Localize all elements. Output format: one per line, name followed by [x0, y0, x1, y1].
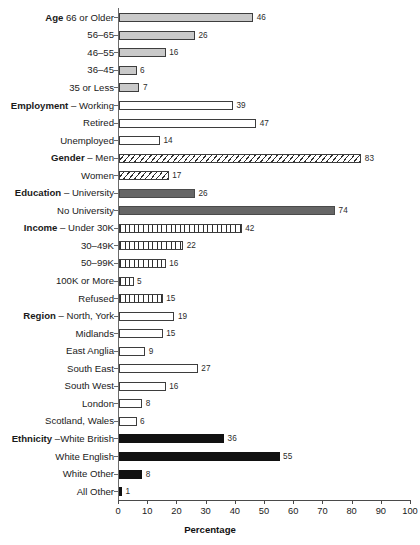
bar [119, 119, 256, 128]
bar-label: Gender – Men [0, 153, 114, 163]
bar [119, 83, 139, 92]
bar-and-value: 7 [119, 78, 148, 98]
x-axis-title: Percentage [0, 524, 420, 535]
bar-row: East Anglia9 [0, 341, 420, 361]
bar-value-label: 9 [149, 347, 154, 356]
bar-value-label: 74 [339, 206, 348, 215]
bar-label: South West [0, 381, 114, 391]
x-axis-tick [352, 500, 353, 504]
bar-label: East Anglia [0, 346, 114, 356]
bar [119, 452, 280, 461]
bar-value-label: 19 [178, 312, 187, 321]
y-axis-tick [114, 281, 118, 282]
y-axis-tick [114, 491, 118, 492]
bar-value-label: 47 [260, 119, 269, 128]
x-axis-tick-label: 10 [142, 506, 152, 516]
bar-value-label: 1 [125, 487, 130, 496]
x-axis-tick [235, 500, 236, 504]
bar-value-label: 8 [146, 470, 151, 479]
x-axis-tick-label: 50 [259, 506, 269, 516]
x-axis-tick [322, 500, 323, 504]
bar-value-label: 7 [143, 83, 148, 92]
y-axis-tick [114, 421, 118, 422]
y-axis-tick [114, 123, 118, 124]
x-axis-tick [147, 500, 148, 504]
bar-label: Retired [0, 118, 114, 128]
bar-row: Ethnicity –White British36 [0, 429, 420, 449]
y-axis-tick [114, 210, 118, 211]
bar-and-value: 17 [119, 166, 181, 186]
bar-value-label: 5 [137, 277, 142, 286]
bar-value-label: 16 [169, 259, 178, 268]
bar-value-label: 8 [146, 399, 151, 408]
bar-label: Education – University [0, 188, 114, 198]
x-axis-tick-label: 60 [288, 506, 298, 516]
x-axis-tick [118, 500, 119, 504]
y-axis-tick [114, 316, 118, 317]
bar-value-label: 15 [166, 329, 175, 338]
y-axis-tick [114, 52, 118, 53]
x-axis-tick-label: 100 [402, 506, 418, 516]
y-axis-tick [114, 228, 118, 229]
bar-label: Unemployed [0, 136, 114, 146]
x-axis-tick-label: 70 [317, 506, 327, 516]
bar [119, 347, 145, 356]
bar [119, 48, 166, 57]
bar-value-label: 6 [140, 417, 145, 426]
bar-and-value: 1 [119, 482, 130, 502]
bar-label: White English [0, 452, 114, 462]
bar-label: 36–45 [0, 65, 114, 75]
bar-value-label: 16 [169, 382, 178, 391]
bar-label: 30–49K [0, 241, 114, 251]
x-axis-tick-label: 20 [171, 506, 181, 516]
bar-label: Income – Under 30K [0, 223, 114, 233]
bar-label: 56–65 [0, 30, 114, 40]
bar-row: 50–99K16 [0, 254, 420, 274]
bar-value-label: 36 [228, 434, 237, 443]
bar [119, 241, 183, 250]
y-axis-tick [114, 140, 118, 141]
bar-and-value: 36 [119, 429, 237, 449]
bar [119, 171, 169, 180]
bar [119, 259, 166, 268]
bar-value-label: 39 [236, 101, 245, 110]
bar [119, 329, 163, 338]
bar-value-label: 55 [283, 452, 292, 461]
bar-value-label: 46 [257, 13, 266, 22]
bar [119, 364, 198, 373]
bar [119, 277, 134, 286]
bar [119, 312, 174, 321]
bar-value-label: 15 [166, 294, 175, 303]
bar-label: 35 or Less [0, 83, 114, 93]
bar [119, 136, 160, 145]
bar-value-label: 22 [187, 241, 196, 250]
y-axis-tick [114, 351, 118, 352]
bar-value-label: 27 [201, 364, 210, 373]
y-axis-tick [114, 17, 118, 18]
bar-value-label: 42 [245, 224, 254, 233]
bar-and-value: 9 [119, 341, 153, 361]
bar-label: All Other [0, 487, 114, 497]
bar [119, 189, 195, 198]
bar-and-value: 16 [119, 254, 178, 274]
x-axis-tick-label: 40 [230, 506, 240, 516]
bar-label: Midlands [0, 329, 114, 339]
bar-label: Refused [0, 294, 114, 304]
x-axis-tick [176, 500, 177, 504]
y-axis-tick [114, 175, 118, 176]
x-axis-tick-label: 30 [200, 506, 210, 516]
bar-value-label: 26 [198, 31, 207, 40]
bar-label: Scotland, Wales [0, 416, 114, 426]
bar [119, 417, 137, 426]
y-axis-tick [114, 70, 118, 71]
y-axis-tick [114, 87, 118, 88]
bar-value-label: 17 [172, 171, 181, 180]
bar-label: Ethnicity –White British [0, 434, 114, 444]
bar [119, 101, 233, 110]
bar-label: 46–55 [0, 48, 114, 58]
y-axis-tick [114, 158, 118, 159]
x-axis-tick-label: 0 [115, 506, 120, 516]
bar-value-label: 6 [140, 66, 145, 75]
bar-label: Women [0, 171, 114, 181]
x-axis-tick [381, 500, 382, 504]
